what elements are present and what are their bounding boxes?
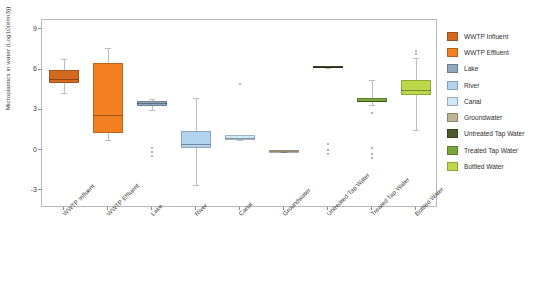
legend: WWTP InfluentWWTP EffluentLakeRiverCanal… [447,28,547,175]
y-tick-9: 9 [0,25,41,32]
legend-label: WWTP Effluent [464,49,509,56]
whisker-upper [108,48,109,63]
legend-swatch-icon [447,64,458,73]
cap-lower [149,110,155,111]
plot-area [41,19,437,207]
boxplot-lake[interactable] [137,20,167,208]
whisker-lower [108,133,109,140]
legend-label: Untreated Tap Water [464,130,524,137]
cap-lower [413,130,419,131]
y-tick-6: 6 [0,65,41,72]
whisker-upper [64,59,65,70]
legend-item-groundwater[interactable]: Groundwater [447,109,547,125]
median-line [313,67,343,68]
cap-lower [325,68,331,69]
cap-upper [369,80,375,81]
cap-lower [369,105,375,106]
outlier-point [151,147,153,149]
cap-lower [193,185,199,186]
cap-upper [61,59,67,60]
outlier-point [151,151,153,153]
cap-lower [61,93,67,94]
boxplot-untreated-tap-water[interactable] [313,20,343,208]
legend-swatch-icon [447,48,458,57]
legend-label: WWTP Influent [464,33,508,40]
legend-item-canal[interactable]: Canal [447,93,547,109]
whisker-upper [416,58,417,81]
legend-label: River [464,82,479,89]
outlier-point [415,53,417,55]
boxplot-wwtp-effluent[interactable] [93,20,123,208]
whisker-lower [416,95,417,130]
y-tick-0: 0 [0,146,41,153]
cap-lower [237,140,243,141]
legend-swatch-icon [447,81,458,90]
legend-label: Canal [464,98,481,105]
legend-item-untreated-tap-water[interactable]: Untreated Tap Water [447,126,547,142]
whisker-lower [196,148,197,186]
box-iqr [181,131,211,147]
outlier-point [371,153,373,155]
outlier-point [151,155,153,157]
legend-item-treated-tap-water[interactable]: Treated Tap Water [447,142,547,158]
outlier-point [327,153,329,155]
median-line [357,101,387,102]
cap-upper [193,98,199,99]
y-axis-title: Microplastics in water (Log10(#/m3)) [4,0,11,154]
outlier-point [239,83,241,85]
cap-lower [105,140,111,141]
outlier-point [327,149,329,151]
outlier-point [371,157,373,159]
median-line [49,79,79,80]
boxplot-canal[interactable] [225,20,255,208]
whisker-lower [64,83,65,92]
median-line [401,90,431,91]
outlier-point [371,147,373,149]
box-iqr [93,63,123,133]
legend-label: Lake [464,65,478,72]
y-tick--3: -3 [0,186,41,193]
cap-upper [413,58,419,59]
legend-swatch-icon [447,129,458,138]
legend-label: Groundwater [464,114,502,121]
whisker-upper [372,80,373,97]
median-line [225,138,255,139]
legend-swatch-icon [447,162,458,171]
median-line [93,115,123,116]
legend-swatch-icon [447,97,458,106]
legend-item-wwtp-effluent[interactable]: WWTP Effluent [447,44,547,60]
legend-swatch-icon [447,146,458,155]
outlier-point [371,112,373,114]
legend-label: Bottled Water [464,163,504,170]
outlier-point [415,50,417,52]
legend-item-bottled-water[interactable]: Bottled Water [447,158,547,174]
y-tick-3: 3 [0,105,41,112]
outlier-point [327,143,329,145]
median-line [181,144,211,145]
legend-swatch-icon [447,32,458,41]
legend-label: Treated Tap Water [464,147,518,154]
legend-item-lake[interactable]: Lake [447,61,547,77]
median-line [137,103,167,104]
boxplot-groundwater[interactable] [269,20,299,208]
legend-item-river[interactable]: River [447,77,547,93]
cap-upper [105,48,111,49]
legend-swatch-icon [447,113,458,122]
boxplot-river[interactable] [181,20,211,208]
legend-item-wwtp-influent[interactable]: WWTP Influent [447,28,547,44]
box-iqr [49,70,79,83]
median-line [269,152,299,153]
chart-root: Microplastics in water (Log10(#/m3)) 963… [0,0,550,282]
box-iqr [401,80,431,95]
boxplot-wwtp-influent[interactable] [49,20,79,208]
whisker-upper [196,98,197,132]
